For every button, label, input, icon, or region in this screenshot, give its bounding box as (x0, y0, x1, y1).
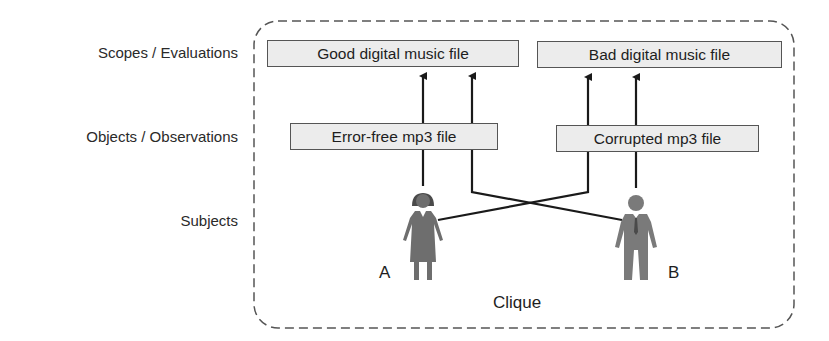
object-errorfree-box: Error-free mp3 file (290, 123, 498, 150)
object-corrupted-box: Corrupted mp3 file (556, 125, 759, 152)
row-label-scopes: Scopes / Evaluations (98, 44, 238, 61)
man-icon (615, 195, 657, 280)
row-label-subjects: Subjects (180, 212, 238, 229)
arrows-to-bad (588, 77, 636, 125)
woman-icon (403, 193, 443, 280)
scope-good-box: Good digital music file (267, 40, 519, 67)
subject-b-label: B (668, 263, 679, 283)
scope-bad-box: Bad digital music file (537, 41, 782, 68)
row-label-objects: Objects / Observations (86, 128, 238, 145)
arrows-to-good (423, 76, 472, 123)
subject-a-label: A (379, 263, 390, 283)
clique-label: Clique (493, 293, 541, 313)
